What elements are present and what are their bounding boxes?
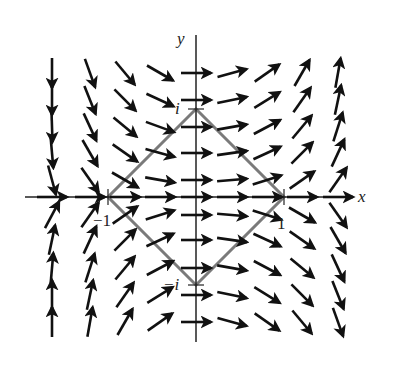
arrow-icon [331,227,346,253]
x-axis-label: x [358,188,366,205]
arrow-icon [253,234,280,247]
arrow-icon [217,97,246,103]
arrow-icon [81,168,98,193]
tick-label-one: 1 [277,215,286,232]
arrow-icon [217,214,247,217]
arrow-icon [290,171,315,188]
arrow-icon [333,308,343,336]
tick-label-minus-one: −1 [93,212,111,229]
arrow-icon [291,258,314,277]
arrow-icon [115,257,134,280]
arrow-icon [254,120,280,134]
arrow-icon [292,311,311,334]
arrow-icon [146,94,173,107]
arrow-icon [114,89,135,110]
arrow-icon [147,261,173,275]
arrow-icon [332,281,343,309]
arrow-icon [218,318,247,326]
arrow-icon [114,229,135,250]
arrow-icon [291,284,312,305]
arrow-icon [329,168,346,193]
arrow-icon [84,86,95,114]
vector-field-arrows [37,58,353,337]
arrow-icon [291,142,312,163]
arrow-icon [332,139,345,166]
arrow-icon [118,309,133,335]
arrow-icon [217,265,247,270]
arrow-icon [147,66,173,81]
arrow-icon [85,59,95,87]
arrow-icon [113,144,138,161]
arrow-icon [85,254,94,283]
arrow-icon [332,254,345,281]
vector-field-figure [0,0,393,369]
arrow-icon [83,140,98,166]
arrow-icon [293,88,310,113]
tick-label-minus-i: −i [163,276,179,293]
arrow-icon [87,280,93,309]
tick-label-i: i [175,100,180,117]
arrow-icon [114,117,137,136]
arrow-icon [255,64,280,81]
arrow-icon [333,113,342,142]
arrow-icon [255,313,280,330]
arrow-icon [254,287,279,303]
y-axis-label: y [177,30,185,47]
arrow-icon [335,58,340,88]
arrow-icon [146,122,174,132]
arrow-icon [295,60,310,86]
arrow-icon [217,124,247,129]
arrow-icon [290,231,315,248]
arrow-icon [217,179,247,182]
arrow-icon [146,210,175,219]
arrow-icon [217,292,246,298]
arrow-icon [84,226,97,253]
arrow-icon [254,261,280,275]
arrow-icon [329,203,346,228]
arrow-icon [45,202,59,228]
arrow-icon [145,177,175,182]
arrow-icon [335,85,341,114]
arrow-icon [84,113,97,140]
arrow-icon [116,283,133,308]
arrow-icon [87,307,92,337]
arrow-icon [148,313,173,330]
arrow-icon [51,138,54,168]
arrow-icon [289,208,315,223]
arrow-icon [253,147,280,160]
arrow-icon [112,173,138,188]
arrow-icon [49,225,55,254]
arrow-icon [253,175,282,184]
arrow-icon [48,166,56,195]
arrow-icon [52,112,53,142]
arrow-icon [115,62,134,85]
arrow-icon [292,116,311,139]
arrow-icon [51,253,54,283]
arrow-icon [218,69,247,77]
arrow-icon [254,92,279,108]
